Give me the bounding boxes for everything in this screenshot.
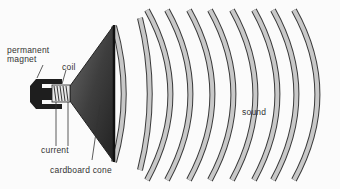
sound-waves [114, 10, 317, 180]
cardboard-cone [70, 25, 114, 162]
coil [52, 85, 70, 102]
sound-wave-fill [140, 18, 150, 170]
magnet-leader [37, 65, 43, 78]
label-magnet: magnet [7, 55, 37, 64]
loudspeaker-diagram: permanent magnet coil current cardboard … [0, 0, 340, 189]
diagram-graphic [0, 0, 340, 189]
coil-leader [62, 70, 66, 84]
label-current: current [41, 146, 69, 155]
label-sound: sound [242, 108, 266, 117]
label-cardboard-cone: cardboard cone [50, 166, 112, 175]
sound-wave-fill [114, 26, 124, 162]
label-coil: coil [62, 63, 76, 72]
